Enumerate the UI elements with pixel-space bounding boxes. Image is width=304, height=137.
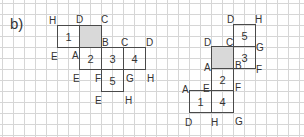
- left-net-vertex-label: D: [76, 15, 83, 25]
- right-net-vertex-label: A: [204, 63, 211, 73]
- right-net-vertex-label: C: [226, 38, 233, 48]
- left-net-shaded-base-face: [79, 25, 102, 48]
- left-net-face-1: 1: [57, 25, 80, 48]
- right-net-vertex-label: D: [185, 118, 192, 128]
- left-net-vertex-label: E: [51, 52, 58, 62]
- left-net-vertex-label: H: [49, 16, 56, 26]
- left-net-face-2: 2: [79, 47, 102, 70]
- right-net-vertex-label: H: [211, 118, 218, 128]
- right-net-vertex-label: H: [255, 15, 262, 25]
- part-label: b): [10, 16, 23, 31]
- right-net-face-4: 4: [211, 90, 234, 113]
- right-net-vertex-label: A: [182, 85, 189, 95]
- right-net-vertex-label: F: [235, 83, 241, 93]
- right-net-face-2: 2: [211, 68, 234, 91]
- right-net-vertex-label: G: [235, 117, 243, 127]
- left-net-vertex-label: A: [72, 51, 79, 61]
- right-net-vertex-label: D: [204, 38, 211, 48]
- left-net-vertex-label: H: [147, 74, 154, 84]
- left-net-vertex-label: C: [121, 38, 128, 48]
- right-net-vertex-label: B: [235, 61, 242, 71]
- right-net-vertex-label: G: [256, 43, 264, 53]
- left-net-vertex-label: H: [125, 96, 132, 106]
- left-net-vertex-label: C: [101, 15, 108, 25]
- left-net-face-4: 4: [123, 47, 146, 70]
- right-net-vertex-label: F: [256, 65, 262, 75]
- left-net-vertex-label: G: [126, 74, 134, 84]
- right-net-vertex-label: D: [227, 15, 234, 25]
- right-net-shaded-base-face: [211, 46, 234, 69]
- left-net-vertex-label: F: [95, 74, 101, 84]
- left-net-vertex-label: B: [102, 38, 109, 48]
- grid-paper: b) 12345HDCBCDEAEFGHEH 53214DHDCGABFAEFD…: [0, 0, 304, 137]
- right-net-vertex-label: E: [203, 84, 210, 94]
- left-net-face-5: 5: [101, 69, 124, 92]
- left-net-vertex-label: E: [95, 96, 102, 106]
- left-net-vertex-label: E: [73, 74, 80, 84]
- left-net-vertex-label: D: [146, 38, 153, 48]
- right-net-face-5: 5: [233, 24, 256, 47]
- left-net-face-3: 3: [101, 47, 124, 70]
